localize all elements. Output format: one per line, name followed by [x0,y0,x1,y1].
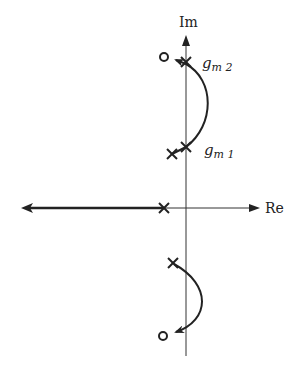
real-axis-locus-branch [21,203,164,213]
imaginary-axis [182,35,190,356]
zero-upper-icon [160,53,168,61]
pole-lower-icon [168,258,178,268]
real-axis-label: Re [265,200,284,216]
real-axis [164,204,260,212]
lower-locus-branch [174,264,202,332]
upper-locus-branch [172,60,208,154]
zero-lower-icon [159,332,167,340]
gm1-label: gm 1 [204,141,235,161]
pole-upper-left-icon [167,149,177,159]
gm2-label: gm 2 [202,54,233,74]
root-locus-diagram: Im Re gm 2 gm 1 [0,0,300,367]
imag-axis-label: Im [179,14,198,30]
